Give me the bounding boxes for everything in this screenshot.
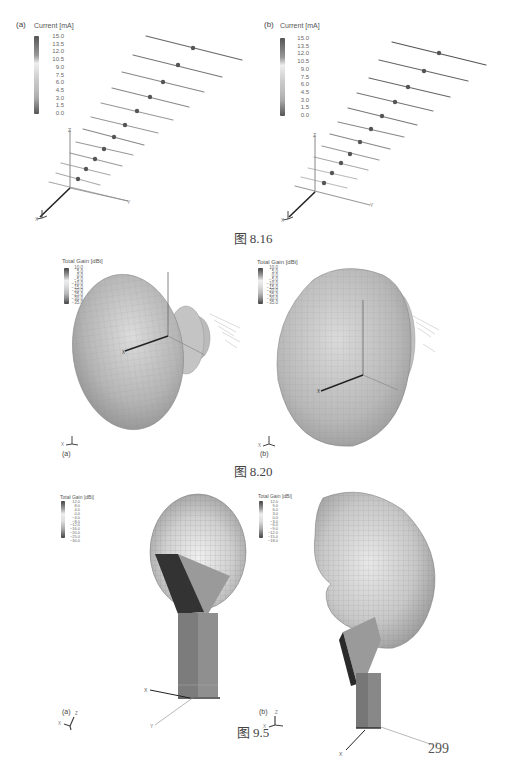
svg-text:Y: Y [370,202,374,208]
page-number: 299 [428,741,449,757]
figure-caption: 图 8.20 [193,461,313,480]
panel-label: (a) [62,708,71,715]
svg-text:X: X [122,350,125,355]
svg-text:X: X [144,687,148,693]
horn-antenna-radiation-pattern: X Y Z X [253,480,506,740]
yagi-antenna-current-plot: Z Y X [0,0,253,225]
horn-antenna-radiation-pattern: X Y Z X [0,480,253,740]
svg-text:Y: Y [150,723,154,729]
svg-text:Y: Y [127,199,131,205]
radiation-pattern-3d: X X [0,240,253,460]
svg-text:Z: Z [275,710,278,715]
panel-label: (a) [62,450,71,457]
svg-text:Z: Z [68,127,71,133]
svg-text:X: X [58,721,61,726]
svg-text:X: X [281,218,284,223]
svg-text:X: X [339,751,343,757]
figure-caption: 图 9.5 [193,722,313,741]
svg-text:X: X [61,442,64,447]
yagi-antenna-current-plot: Z Y X [253,0,506,225]
radiation-pattern-3d: X X [253,240,506,460]
svg-text:X: X [258,443,261,448]
svg-text:X: X [35,217,38,222]
svg-text:Z: Z [313,132,316,138]
svg-text:X: X [317,389,320,394]
panel-label: (b) [259,708,268,715]
svg-text:Z: Z [75,711,78,716]
panel-label: (b) [260,450,269,457]
